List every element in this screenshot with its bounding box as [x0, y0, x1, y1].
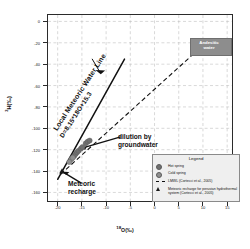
legend-entry-label: Meteoric recharge for peruvian hydrother…	[168, 187, 242, 195]
figure-root: -20-15-10-5051015 0-20-40-60-80-100-120-…	[0, 0, 250, 249]
meteoric-recharge-line2: recharge	[68, 188, 96, 196]
andesitic-water-callout-text: Andesitic water	[192, 40, 226, 50]
x-tick-mark	[178, 202, 179, 206]
y-tick-mark	[43, 21, 47, 22]
x-axis-title: 18O(‰)	[0, 225, 250, 233]
legend-entry-label: Hot spring	[168, 164, 184, 168]
legend-triangle-marker-icon	[156, 187, 160, 191]
y-tick-mark	[43, 85, 47, 86]
marker-hot-spring	[87, 138, 92, 143]
y-tick-mark	[43, 42, 47, 43]
legend-entry-label: LMWL (Cortecci et al., 2005)	[168, 179, 212, 183]
dilution-annotation-line2: groundwater	[118, 141, 158, 149]
legend-circle-marker-icon	[156, 172, 162, 178]
x-tick-mark	[81, 202, 82, 206]
andesitic-water-line2: water	[192, 45, 226, 50]
y-tick-mark	[43, 171, 47, 172]
legend-entry-label: Cold spring	[168, 171, 186, 175]
marker-cold-spring	[67, 159, 72, 164]
y-axis-title: 2H(‰)	[4, 82, 12, 126]
y-tick-mark	[43, 149, 47, 150]
x-tick-mark	[227, 202, 228, 206]
legend-dashed-line-icon	[156, 181, 165, 182]
y-tick-mark	[43, 64, 47, 65]
y-tick-mark	[43, 106, 47, 107]
meteoric-recharge-line1: Meteoric	[68, 180, 96, 188]
legend-title: Legend	[152, 156, 240, 161]
y-tick-mark	[43, 192, 47, 193]
x-tick-mark	[106, 202, 107, 206]
meteoric-recharge-annotation: Meteoric recharge	[68, 180, 96, 197]
x-tick-mark	[57, 202, 58, 206]
y-axis-title-base: H(‰)	[6, 96, 12, 109]
dilution-annotation-line1: dilution by	[118, 133, 158, 141]
x-axis-title-base: O(‰)	[121, 227, 134, 233]
dilution-annotation: dilution by groundwater	[118, 133, 158, 150]
x-tick-mark	[202, 202, 203, 206]
x-tick-mark	[154, 202, 155, 206]
marker-cold-spring	[70, 155, 75, 160]
x-tick-mark	[130, 202, 131, 206]
y-tick-mark	[43, 128, 47, 129]
